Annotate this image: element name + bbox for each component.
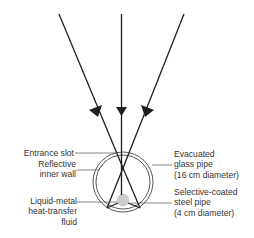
arrow-head-center (116, 107, 127, 116)
label-liquid-metal-fluid: Liquid-metal heat-transfer fluid (28, 196, 77, 227)
label-line: (4 cm diameter) (174, 208, 238, 218)
selective-coated-steel-pipe (117, 194, 129, 206)
label-reflective-inner-wall: Reflective inner wall (38, 159, 76, 180)
label-line: steel pipe (174, 197, 238, 207)
label-line: glass pipe (174, 159, 239, 169)
label-steel-pipe: Selective-coated steel pipe (4 cm diamet… (174, 187, 238, 218)
leader-reflective-wall (76, 165, 103, 170)
label-entrance-slot: Entrance slot (24, 148, 74, 158)
ray-right (123, 14, 184, 168)
label-line: Reflective (38, 159, 76, 169)
label-line: inner wall (38, 169, 76, 179)
label-line: Liquid-metal (28, 196, 77, 206)
label-line: Evacuated (174, 149, 239, 159)
label-evacuated-glass-pipe: Evacuated glass pipe (16 cm diameter) (174, 149, 239, 180)
label-line: (16 cm diameter) (174, 170, 239, 180)
arrow-head-left (89, 105, 102, 117)
ray-left (59, 14, 123, 168)
label-line: heat-transfer (28, 206, 77, 216)
label-line: Selective-coated (174, 187, 238, 197)
label-line: fluid (28, 217, 77, 227)
